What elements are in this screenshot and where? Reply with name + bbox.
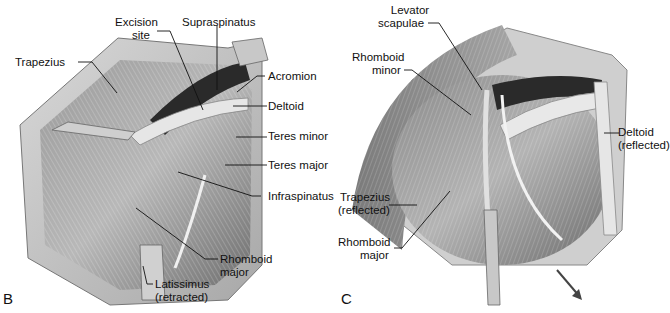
label-rhomboid-major-line2: major (360, 249, 389, 262)
label-deltoid-reflected-line2: (reflected) (618, 139, 670, 152)
panel-b-scapula-excision: Trapezius Excision site Supraspinatus Ac… (0, 0, 332, 313)
label-rhomboid-minor-line1: Rhomboid (352, 51, 404, 64)
label-teres-major: Teres major (268, 159, 328, 172)
label-trapezius-reflected-line2: (reflected) (338, 204, 390, 217)
label-rhomboid-major-line2: major (220, 266, 249, 279)
label-trapezius-reflected-line1: Trapezius (340, 191, 390, 204)
label-acromion: Acromion (268, 70, 317, 83)
label-rhomboid-major-line1: Rhomboid (220, 253, 272, 266)
panel-letter-b: B (3, 290, 13, 307)
panel-c-illustration (332, 0, 665, 313)
label-rhomboid-major-line1: Rhomboid (338, 236, 390, 249)
label-teres-minor: Teres minor (268, 130, 328, 143)
label-levator-scapulae-line1: Levator (387, 4, 433, 17)
label-deltoid-reflected-line1: Deltoid (618, 126, 654, 139)
panel-c-rhomboid-exposure: Levator scapulae Rhomboid minor Deltoid … (332, 0, 665, 313)
panel-letter-c: C (341, 290, 352, 307)
label-latissimus-line1: Latissimus (155, 278, 209, 291)
label-rhomboid-minor-line2: minor (372, 64, 401, 77)
panel-b-illustration (0, 0, 332, 313)
label-excision-site-line2: site (127, 29, 155, 42)
label-supraspinatus: Supraspinatus (182, 16, 256, 29)
label-excision-site-line1: Excision (115, 16, 155, 29)
label-infraspinatus: Infraspinatus (268, 190, 334, 203)
label-deltoid: Deltoid (268, 100, 304, 113)
label-latissimus-line2: (retracted) (155, 291, 208, 304)
label-trapezius: Trapezius (15, 56, 65, 69)
label-levator-scapulae-line2: scapulae (378, 17, 424, 30)
